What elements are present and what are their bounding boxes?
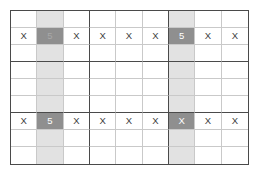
- sudoku-cell[interactable]: [195, 45, 221, 62]
- sudoku-cell[interactable]: X: [195, 113, 221, 130]
- sudoku-cell[interactable]: X: [64, 113, 90, 130]
- digit-mark: 5: [47, 31, 52, 41]
- sudoku-cell-highlighted[interactable]: X: [169, 113, 195, 130]
- sudoku-cell[interactable]: [90, 96, 116, 113]
- sudoku-cell[interactable]: [64, 96, 90, 113]
- cross-mark: X: [73, 31, 79, 41]
- sudoku-cell[interactable]: [11, 147, 37, 164]
- sudoku-cell[interactable]: [11, 79, 37, 96]
- sudoku-cell[interactable]: [143, 96, 169, 113]
- cross-mark: X: [126, 116, 132, 126]
- cross-mark: X: [152, 31, 158, 41]
- sudoku-cell-column-highlight[interactable]: [37, 62, 63, 79]
- sudoku-cell[interactable]: [64, 130, 90, 147]
- sudoku-cell[interactable]: [64, 62, 90, 79]
- cross-mark: X: [232, 31, 238, 41]
- sudoku-cell[interactable]: [116, 45, 142, 62]
- cross-mark: X: [99, 31, 105, 41]
- sudoku-cell[interactable]: X: [143, 113, 169, 130]
- sudoku-cell-column-highlight[interactable]: [169, 147, 195, 164]
- sudoku-cell[interactable]: X: [11, 28, 37, 45]
- sudoku-cell-column-highlight[interactable]: [37, 79, 63, 96]
- sudoku-cell[interactable]: [195, 96, 221, 113]
- sudoku-cell-highlighted[interactable]: 5: [169, 28, 195, 45]
- sudoku-cell[interactable]: X: [116, 113, 142, 130]
- sudoku-cell[interactable]: [222, 62, 248, 79]
- sudoku-cell[interactable]: [195, 79, 221, 96]
- sudoku-cell[interactable]: [11, 96, 37, 113]
- sudoku-cell[interactable]: [116, 130, 142, 147]
- sudoku-cell[interactable]: [11, 11, 37, 28]
- sudoku-cell[interactable]: X: [90, 28, 116, 45]
- cross-mark: X: [178, 116, 184, 126]
- sudoku-cell[interactable]: [222, 45, 248, 62]
- sudoku-cell[interactable]: [143, 62, 169, 79]
- sudoku-cell[interactable]: [143, 79, 169, 96]
- sudoku-cell-column-highlight[interactable]: [169, 45, 195, 62]
- sudoku-cell-column-highlight[interactable]: [37, 130, 63, 147]
- sudoku-figure: X5XXXX5XXX5XXXXXXX: [0, 0, 259, 174]
- sudoku-cell[interactable]: X: [195, 28, 221, 45]
- sudoku-cell[interactable]: [222, 79, 248, 96]
- sudoku-cell[interactable]: [222, 11, 248, 28]
- sudoku-cell[interactable]: [11, 45, 37, 62]
- sudoku-grid: X5XXXX5XXX5XXXXXXX: [10, 10, 249, 165]
- sudoku-cell[interactable]: [195, 11, 221, 28]
- sudoku-cell-column-highlight[interactable]: [37, 11, 63, 28]
- sudoku-cell-column-highlight[interactable]: [37, 96, 63, 113]
- sudoku-cell[interactable]: [143, 130, 169, 147]
- cross-mark: X: [20, 116, 26, 126]
- cross-mark: X: [73, 116, 79, 126]
- cross-mark: X: [205, 116, 211, 126]
- sudoku-cell[interactable]: [116, 96, 142, 113]
- cross-mark: X: [20, 31, 26, 41]
- sudoku-cell[interactable]: [90, 147, 116, 164]
- sudoku-cell[interactable]: [195, 62, 221, 79]
- cross-mark: X: [232, 116, 238, 126]
- sudoku-cell[interactable]: X: [143, 28, 169, 45]
- sudoku-cell[interactable]: [116, 79, 142, 96]
- cross-mark: X: [126, 31, 132, 41]
- sudoku-cell[interactable]: [116, 147, 142, 164]
- digit-mark: 5: [47, 116, 52, 126]
- sudoku-cell[interactable]: [143, 147, 169, 164]
- sudoku-cell-column-highlight[interactable]: [169, 130, 195, 147]
- sudoku-cell[interactable]: X: [11, 113, 37, 130]
- sudoku-cell-column-highlight[interactable]: [37, 147, 63, 164]
- sudoku-cell[interactable]: [222, 96, 248, 113]
- sudoku-cell[interactable]: X: [90, 113, 116, 130]
- sudoku-cell[interactable]: [11, 62, 37, 79]
- sudoku-cell[interactable]: [222, 130, 248, 147]
- sudoku-cell[interactable]: X: [64, 28, 90, 45]
- cross-mark: X: [152, 116, 158, 126]
- sudoku-cell[interactable]: [143, 45, 169, 62]
- sudoku-cell-column-highlight[interactable]: [169, 79, 195, 96]
- sudoku-cell[interactable]: [64, 45, 90, 62]
- sudoku-cell[interactable]: [90, 11, 116, 28]
- sudoku-cell[interactable]: [116, 11, 142, 28]
- sudoku-cell-column-highlight[interactable]: [37, 45, 63, 62]
- sudoku-cell[interactable]: [90, 45, 116, 62]
- sudoku-cell[interactable]: [90, 79, 116, 96]
- sudoku-cell[interactable]: X: [222, 113, 248, 130]
- sudoku-cell-column-highlight[interactable]: [169, 62, 195, 79]
- sudoku-cell[interactable]: [11, 130, 37, 147]
- sudoku-cell-column-highlight[interactable]: [169, 11, 195, 28]
- sudoku-cell[interactable]: [90, 62, 116, 79]
- sudoku-cell[interactable]: [143, 11, 169, 28]
- sudoku-cell[interactable]: [64, 79, 90, 96]
- sudoku-cell-highlighted[interactable]: 5: [37, 28, 63, 45]
- sudoku-cell[interactable]: [195, 130, 221, 147]
- sudoku-cell-highlighted[interactable]: 5: [37, 113, 63, 130]
- sudoku-cell[interactable]: [116, 62, 142, 79]
- sudoku-cell[interactable]: X: [116, 28, 142, 45]
- digit-mark: 5: [179, 31, 184, 41]
- sudoku-cell[interactable]: [195, 147, 221, 164]
- sudoku-cell[interactable]: [64, 147, 90, 164]
- sudoku-cell[interactable]: [64, 11, 90, 28]
- sudoku-cell[interactable]: X: [222, 28, 248, 45]
- sudoku-cell[interactable]: [222, 147, 248, 164]
- cross-mark: X: [99, 116, 105, 126]
- sudoku-cell[interactable]: [90, 130, 116, 147]
- sudoku-cell-column-highlight[interactable]: [169, 96, 195, 113]
